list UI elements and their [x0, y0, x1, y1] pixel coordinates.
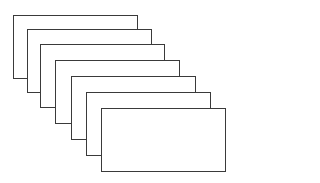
card-7 [101, 108, 226, 172]
